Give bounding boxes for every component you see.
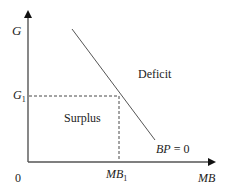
- diagram-canvas: G MB 0 G1 MB1 Deficit Surplus BP = 0: [0, 0, 244, 184]
- y-axis-label: G: [12, 23, 22, 38]
- surplus-region-label: Surplus: [64, 111, 101, 125]
- deficit-region-label: Deficit: [138, 67, 172, 81]
- mb1-label: MB1: [105, 167, 127, 183]
- g1-label: G1: [13, 88, 26, 104]
- x-axis-label: MB: [197, 171, 216, 184]
- bp-zero-label: BP = 0: [156, 142, 189, 156]
- origin-label: 0: [15, 171, 21, 184]
